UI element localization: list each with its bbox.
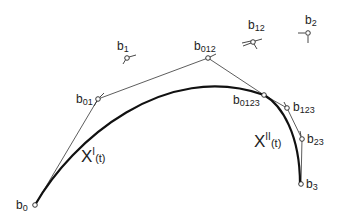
- label-b01: b01: [76, 93, 93, 107]
- control-points: [33, 31, 311, 208]
- point-b0: [33, 203, 38, 208]
- label-b123: b123: [293, 101, 315, 115]
- point-b012: [206, 56, 211, 61]
- label-curve-x-one: XI(t): [81, 147, 106, 165]
- label-b23: b23: [307, 133, 324, 147]
- point-b12: [251, 40, 256, 45]
- label-b0: b0: [16, 199, 28, 213]
- label-curve-x-two: XII(t): [254, 132, 281, 150]
- curve-x-one: [35, 86, 264, 205]
- point-b01: [96, 97, 101, 102]
- label-b1: b1: [117, 40, 129, 54]
- label-b3: b3: [306, 178, 318, 192]
- point-b0123: [262, 93, 267, 98]
- point-b23: [300, 137, 305, 142]
- point-b2: [306, 31, 311, 36]
- control-polygon-left: [35, 58, 264, 205]
- label-b0123: b0123: [233, 94, 260, 108]
- point-b123: [285, 106, 290, 111]
- label-b012: b012: [194, 40, 216, 54]
- label-b2: b2: [305, 14, 317, 28]
- point-b1: [125, 56, 130, 61]
- point-b3: [299, 182, 304, 187]
- label-b12: b12: [248, 19, 265, 33]
